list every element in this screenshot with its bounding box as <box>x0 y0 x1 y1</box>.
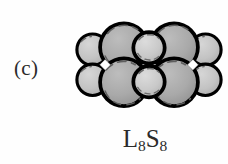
cluster-diagram <box>70 2 228 134</box>
formula-subscript-l: 8 <box>138 137 146 154</box>
small-sphere-center-top <box>133 32 164 63</box>
cluster-svg <box>70 2 228 130</box>
panel-label: (c) <box>14 56 38 81</box>
small-sphere-center-bottom <box>133 66 164 97</box>
formula-symbol-l: L <box>123 125 138 152</box>
formula-subscript-s: 8 <box>160 137 168 154</box>
formula-symbol-s: S <box>146 125 160 152</box>
figure-panel: (c) <box>0 0 228 164</box>
formula-caption: L8S8 <box>0 126 228 154</box>
